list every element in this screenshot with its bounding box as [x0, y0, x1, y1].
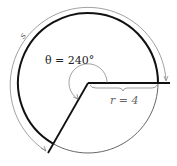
arc-length-label: s [17, 30, 28, 40]
sector-diagram: θ = 240° r = 4 s [0, 0, 177, 166]
angle-label: θ = 240° [45, 54, 94, 67]
arrowhead-bottom-icon [41, 146, 46, 151]
radius-brace [90, 85, 157, 91]
angle-arc [69, 64, 107, 99]
arc-length-arrow [10, 7, 166, 151]
radius-label: r = 4 [110, 94, 138, 107]
sector-bold-arc [18, 13, 158, 144]
radius-line-angled [48, 83, 88, 153]
